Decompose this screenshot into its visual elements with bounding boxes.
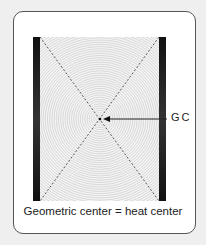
- caption: Geometric center = heat center: [0, 205, 206, 217]
- left-bar: [33, 37, 40, 201]
- center-dot: [99, 118, 102, 121]
- gc-label: GC: [171, 111, 192, 123]
